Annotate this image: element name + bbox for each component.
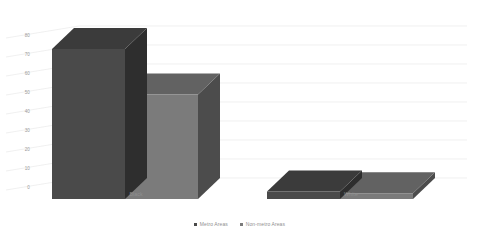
chart-legend: Metro AreasNon-metro Areas <box>0 222 479 227</box>
legend-item-metro-areas[interactable]: Metro Areas <box>194 222 228 227</box>
legend-swatch-icon <box>194 223 197 226</box>
x-axis-label-black: Black <box>96 192 176 197</box>
legend-swatch-icon <box>240 223 243 226</box>
chart-bars <box>0 0 479 231</box>
legend-item-non-metro-areas[interactable]: Non-metro Areas <box>240 222 285 227</box>
legend-label: Metro Areas <box>200 222 228 227</box>
x-axis-label-white: White <box>311 192 391 197</box>
legend-label: Non-metro Areas <box>246 222 285 227</box>
chart-container: 80706050403020100 BlackWhite Metro Areas… <box>0 0 479 231</box>
